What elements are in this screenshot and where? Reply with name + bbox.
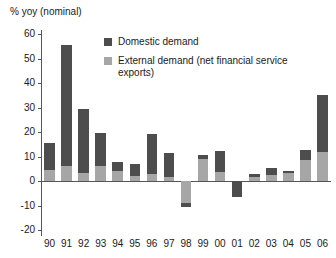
bar-98	[181, 181, 192, 207]
y-axis-tick-mark	[38, 83, 41, 84]
bar-99	[198, 155, 209, 181]
bar-01	[232, 181, 243, 197]
bar-96	[147, 134, 158, 181]
y-axis-tick-label: 0	[1, 176, 41, 186]
bar-segment-domestic-98	[181, 203, 192, 207]
x-axis-label-99: 99	[197, 238, 208, 250]
x-axis-label-91: 91	[61, 238, 72, 250]
bar-segment-domestic-04	[283, 171, 294, 172]
x-axis-labels: 9091929394959697989900010203040506	[41, 238, 331, 254]
bar-segment-domestic-92	[78, 109, 89, 173]
bar-segment-domestic-05	[300, 150, 311, 160]
bar-95	[130, 164, 141, 181]
legend-item-external-demand: External demand (net financial service e…	[104, 55, 324, 79]
legend-label-external-demand: External demand (net financial service e…	[118, 55, 324, 79]
bar-segment-external-95	[130, 176, 141, 181]
bar-segment-domestic-99	[198, 155, 209, 159]
bar-segment-domestic-95	[130, 164, 141, 176]
y-axis-tick-mark	[38, 34, 41, 35]
bar-segment-domestic-96	[147, 134, 158, 173]
x-axis-label-90: 90	[44, 238, 55, 250]
bar-segment-external-91	[61, 166, 72, 181]
y-axis-tick-label: 20	[1, 127, 41, 137]
dark-square-swatch-icon	[104, 38, 112, 46]
y-axis-tick-label: 40	[1, 78, 41, 88]
x-axis-label-01: 01	[232, 238, 243, 250]
bar-segment-domestic-94	[112, 162, 123, 171]
y-axis-tick-mark	[38, 230, 41, 231]
light-square-swatch-icon	[104, 57, 112, 65]
x-axis-label-92: 92	[78, 238, 89, 250]
y-axis-tick-mark	[38, 206, 41, 207]
bar-segment-domestic-02	[249, 174, 260, 178]
y-axis-tick-mark	[38, 157, 41, 158]
x-axis-label-05: 05	[300, 238, 311, 250]
bar-97	[164, 153, 175, 181]
bar-90	[44, 143, 55, 181]
bar-segment-domestic-03	[266, 168, 277, 175]
bar-segment-external-06	[317, 152, 328, 181]
legend-label-domestic-demand: Domestic demand	[118, 36, 199, 48]
bar-04	[283, 171, 294, 181]
x-axis-label-94: 94	[112, 238, 123, 250]
bar-segment-external-00	[215, 172, 226, 181]
bar-segment-domestic-91	[61, 45, 72, 166]
y-axis-tick-label: 30	[1, 103, 41, 113]
bar-05	[300, 150, 311, 181]
bar-segment-external-05	[300, 160, 311, 181]
bar-00	[215, 151, 226, 181]
y-axis-tick-mark	[38, 132, 41, 133]
x-axis-label-98: 98	[180, 238, 191, 250]
bar-segment-external-97	[164, 177, 175, 181]
bar-segment-external-92	[78, 173, 89, 181]
bar-chart: % yoy (nominal) 6050403020100-10-20 9091…	[0, 0, 336, 258]
x-axis-label-06: 06	[317, 238, 328, 250]
bar-segment-external-93	[95, 166, 106, 181]
bar-segment-external-94	[112, 171, 123, 181]
x-axis-label-03: 03	[266, 238, 277, 250]
bar-segment-domestic-06	[317, 95, 328, 151]
x-axis-label-95: 95	[129, 238, 140, 250]
y-axis-tick-mark	[38, 181, 41, 182]
bar-segment-domestic-93	[95, 133, 106, 166]
bar-segment-domestic-90	[44, 143, 55, 170]
bar-02	[249, 174, 260, 181]
bar-segment-external-03	[266, 175, 277, 181]
x-axis-label-93: 93	[95, 238, 106, 250]
y-axis-tick-label: 10	[1, 152, 41, 162]
bar-segment-external-98	[181, 181, 192, 203]
bar-92	[78, 109, 89, 181]
bar-03	[266, 168, 277, 181]
x-axis-label-96: 96	[146, 238, 157, 250]
bar-segment-external-99	[198, 159, 209, 181]
y-axis-tick-mark	[38, 108, 41, 109]
chart-axis-title: % yoy (nominal)	[10, 6, 82, 17]
bar-segment-external-90	[44, 170, 55, 181]
bar-segment-domestic-97	[164, 153, 175, 178]
x-axis-label-97: 97	[163, 238, 174, 250]
y-axis-tick-label: 60	[1, 29, 41, 39]
y-axis-tick-label: -10	[1, 201, 41, 211]
x-axis-label-00: 00	[215, 238, 226, 250]
bar-93	[95, 133, 106, 181]
chart-legend: Domestic demand External demand (net fin…	[104, 36, 324, 86]
y-axis-tick-label: 50	[1, 54, 41, 64]
bar-segment-domestic-00	[215, 151, 226, 172]
y-axis-tick-label: -20	[1, 225, 41, 235]
bar-segment-external-04	[283, 173, 294, 181]
bar-06	[317, 95, 328, 181]
x-axis-label-04: 04	[283, 238, 294, 250]
x-axis-label-02: 02	[249, 238, 260, 250]
bar-segment-external-96	[147, 174, 158, 181]
y-axis-tick-mark	[38, 59, 41, 60]
bar-91	[61, 45, 72, 181]
bar-segment-domestic-01	[232, 181, 243, 197]
bar-segment-external-02	[249, 177, 260, 181]
legend-item-domestic-demand: Domestic demand	[104, 36, 324, 48]
bar-94	[112, 162, 123, 181]
